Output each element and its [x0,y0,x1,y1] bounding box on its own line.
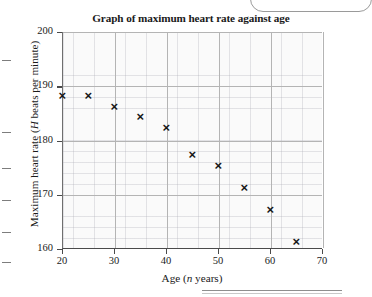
x-axis-tick-label: 40 [151,255,181,266]
x-axis-tick [218,249,219,254]
x-axis-tick [322,249,323,254]
gridline-vertical [323,32,324,248]
y-axis-tick-label: 200 [25,25,53,36]
x-axis-tick-label: 20 [47,255,77,266]
y-axis-variable: H [28,121,40,129]
gridline-horizontal [63,195,322,196]
y-axis-tick [57,249,62,250]
y-axis-tick-label: 190 [25,79,53,90]
x-axis-title-post: years) [192,272,222,284]
y-axis-tick [57,195,62,196]
x-axis-tick-label: 50 [203,255,233,266]
y-axis-tick-label: 160 [25,242,53,253]
chart-title: Graph of maximum heart rate against age [56,12,326,24]
x-axis-tick [270,249,271,254]
x-axis-title-pre: Age ( [162,272,187,284]
x-axis-tick-label: 70 [307,255,337,266]
y-axis-tick [57,32,62,33]
x-axis-tick-label: 30 [99,255,129,266]
y-axis-tick [57,86,62,87]
x-axis-tick [62,249,63,254]
y-axis-tick [57,141,62,142]
x-axis-title: Age (n years) [62,272,322,284]
gridline-horizontal [63,32,322,33]
gridline-horizontal [63,141,322,142]
y-axis-tick-label: 180 [25,134,53,145]
plot-area [62,32,322,249]
y-axis-tick-label: 170 [25,188,53,199]
x-axis-tick [114,249,115,254]
x-axis-tick [166,249,167,254]
x-axis-tick-label: 60 [255,255,285,266]
gridline-horizontal [63,86,322,87]
